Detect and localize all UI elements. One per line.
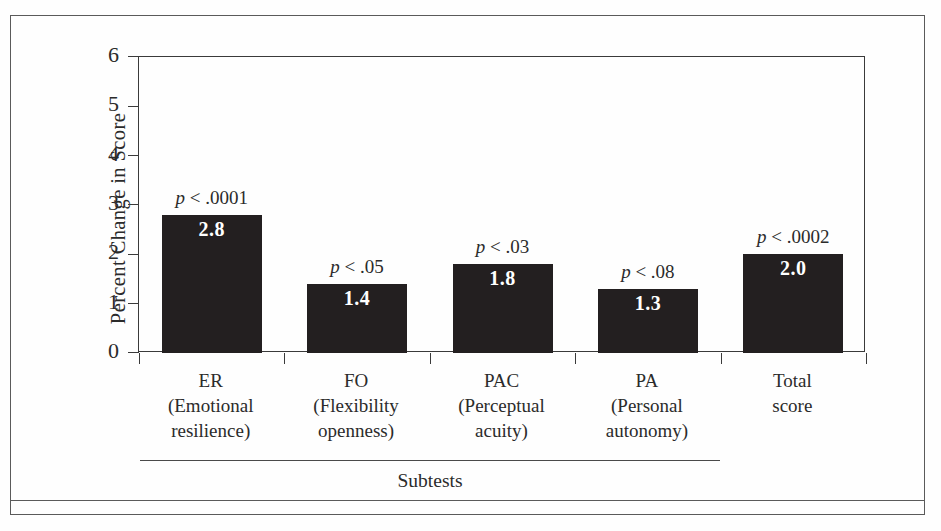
p-symbol: p [621, 261, 631, 282]
y-tick-mark [128, 155, 139, 156]
y-tick-mark [128, 352, 139, 353]
bar-value-label: 2.0 [743, 257, 843, 280]
category-abbreviation: Total [707, 368, 877, 393]
p-value-annotation: p < .05 [267, 256, 447, 278]
x-axis-tick-mark [139, 353, 140, 364]
subtests-bracket-rule [140, 460, 720, 461]
bar-value-label: 1.3 [598, 292, 698, 315]
p-value-annotation: p < .03 [413, 236, 593, 258]
p-value-annotation: p < .0001 [122, 187, 302, 209]
bar: 2.8 [162, 215, 262, 353]
x-axis-tick-mark [284, 353, 285, 364]
y-tick-label: 5 [91, 91, 119, 117]
bar: 1.3 [598, 289, 698, 353]
y-tick-label: 6 [91, 42, 119, 68]
p-value-annotation: p < .0002 [703, 226, 883, 248]
p-value-annotation: p < .08 [558, 261, 738, 283]
y-tick-label: 1 [91, 289, 119, 315]
figure-root: Percent Change in Score 6543210 2.8p < .… [0, 0, 941, 531]
x-axis-tick-mark [866, 353, 867, 364]
y-tick-mark [128, 254, 139, 255]
x-axis-tick-mark [575, 353, 576, 364]
x-axis-category-label: Totalscore [707, 368, 877, 418]
bar-value-label: 1.8 [453, 267, 553, 290]
figure-bottom-divider [11, 500, 924, 501]
x-axis-tick-mark [721, 353, 722, 364]
x-axis-group-label: Subtests [140, 470, 720, 492]
y-tick-mark [128, 106, 139, 107]
p-value-text: < .0001 [185, 187, 248, 208]
y-tick-label: 3 [91, 190, 119, 216]
p-symbol: p [175, 187, 185, 208]
p-value-text: < .05 [340, 256, 384, 277]
y-tick-mark [128, 56, 139, 57]
bar-value-label: 2.8 [162, 218, 262, 241]
p-symbol: p [757, 226, 767, 247]
p-symbol: p [330, 256, 340, 277]
bar: 1.8 [453, 264, 553, 353]
bar-value-label: 1.4 [307, 287, 407, 310]
plot-area: Percent Change in Score 6543210 2.8p < .… [138, 56, 865, 352]
category-name-line1: score [707, 393, 877, 418]
y-tick-label: 0 [91, 338, 119, 364]
x-axis-tick-mark [430, 353, 431, 364]
p-value-text: < .0002 [767, 226, 830, 247]
y-tick-mark [128, 303, 139, 304]
y-tick-label: 4 [91, 141, 119, 167]
p-value-text: < .03 [485, 236, 529, 257]
bar: 2.0 [743, 254, 843, 353]
category-name-line2: autonomy) [562, 418, 732, 443]
p-symbol: p [476, 236, 486, 257]
bar: 1.4 [307, 284, 407, 353]
p-value-text: < .08 [631, 261, 675, 282]
y-tick-label: 2 [91, 239, 119, 265]
